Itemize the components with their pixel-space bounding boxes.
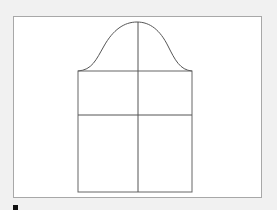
marker-square-icon xyxy=(13,205,18,210)
diagram-canvas xyxy=(0,0,277,210)
sleeve-body-rect xyxy=(78,71,192,192)
sleeve-cap-curve xyxy=(78,22,192,71)
sleeve-pattern-drawing xyxy=(0,0,277,210)
